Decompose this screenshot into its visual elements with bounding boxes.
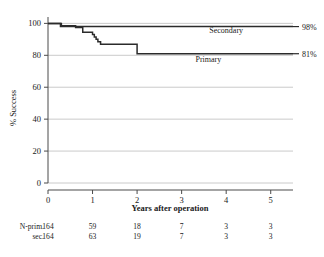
risk-cell-r0-c1: 59: [89, 222, 97, 231]
series-label-secondary: Secondary: [209, 26, 243, 35]
risk-row-label-0: N-prim.: [20, 222, 44, 231]
risk-cell-r0-c5: 3: [269, 222, 273, 231]
endpoint-label-primary: 81%: [302, 50, 317, 59]
x-tick-label-0: 0: [46, 195, 50, 205]
series-label-primary: Primary: [195, 55, 221, 64]
y-tick-label-0: 0: [37, 178, 41, 188]
y-axis-title: % Success: [8, 90, 18, 126]
y-tick-label-80: 80: [33, 50, 42, 60]
chart-background: [0, 0, 324, 257]
risk-cell-r1-c2: 19: [133, 232, 141, 241]
risk-cell-r0-c3: 7: [180, 222, 184, 231]
risk-cell-r0-c0: 164: [42, 222, 54, 231]
x-tick-label-1: 1: [90, 195, 94, 205]
x-tick-label-4: 4: [224, 195, 229, 205]
risk-cell-r1-c3: 7: [180, 232, 184, 241]
survival-chart: 020406080100 012345 98%81% SecondaryPrim…: [0, 0, 324, 257]
chart-svg: 020406080100 012345 98%81% SecondaryPrim…: [0, 0, 324, 257]
risk-cell-r1-c0: 164: [42, 232, 54, 241]
y-tick-label-40: 40: [33, 114, 42, 124]
risk-cell-r0-c2: 18: [133, 222, 141, 231]
x-axis-title: Years after operation: [132, 203, 209, 213]
x-tick-label-5: 5: [269, 195, 273, 205]
risk-cell-r1-c5: 3: [269, 232, 273, 241]
risk-cell-r1-c1: 63: [89, 232, 97, 241]
y-tick-label-60: 60: [33, 82, 42, 92]
y-tick-label-20: 20: [33, 146, 42, 156]
risk-cell-r1-c4: 3: [224, 232, 228, 241]
risk-cell-r0-c4: 3: [224, 222, 228, 231]
endpoint-label-secondary: 98%: [302, 23, 317, 32]
y-tick-label-100: 100: [28, 18, 41, 28]
